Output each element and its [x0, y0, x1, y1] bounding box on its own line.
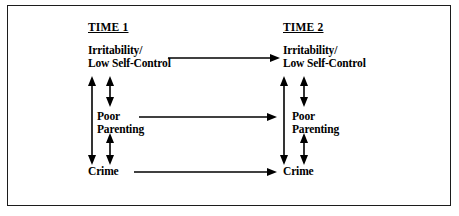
node-time1-irritability-line2: Low Self-Control — [88, 57, 171, 70]
node-time2-crime-label: Crime — [283, 165, 314, 178]
node-time2-poor-parenting-line2: Parenting — [292, 123, 339, 136]
node-time2-irritability-line2: Low Self-Control — [283, 57, 366, 70]
node-time1-crime-label: Crime — [88, 165, 119, 178]
node-time2-irritability-line1: Irritability/ — [283, 44, 366, 57]
node-time1-poor-parenting-line2: Parenting — [97, 123, 144, 136]
node-time2-irritability: Irritability/ Low Self-Control — [283, 44, 366, 69]
node-time2-crime: Crime — [283, 165, 314, 178]
column-heading-time2: TIME 2 — [283, 21, 324, 34]
node-time2-poor-parenting-line1: Poor — [292, 110, 339, 123]
diagram-border — [7, 5, 451, 206]
node-time1-crime: Crime — [88, 165, 119, 178]
node-time1-poor-parenting-line1: Poor — [97, 110, 144, 123]
node-time1-irritability: Irritability/ Low Self-Control — [88, 44, 171, 69]
node-time1-poor-parenting: Poor Parenting — [97, 110, 144, 135]
column-heading-time1: TIME 1 — [88, 21, 129, 34]
path-diagram-figure: TIME 1 TIME 2 Irritability/ Low Self-Con… — [0, 0, 459, 216]
node-time2-poor-parenting: Poor Parenting — [292, 110, 339, 135]
node-time1-irritability-line1: Irritability/ — [88, 44, 171, 57]
